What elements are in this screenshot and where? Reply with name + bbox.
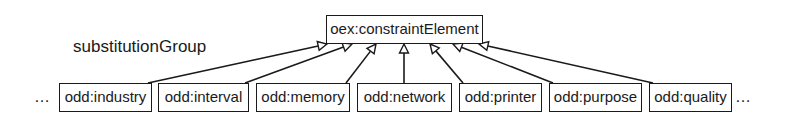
child-class-box-purpose: odd:purpose xyxy=(549,83,642,112)
parent-class-box: oex:constraintElement xyxy=(326,15,483,44)
child-class-label: odd:memory xyxy=(261,88,344,105)
child-class-box-memory: odd:memory xyxy=(256,83,350,112)
child-class-label: odd:network xyxy=(364,88,446,105)
hollow-triangle-arrowhead-icon xyxy=(342,43,352,51)
child-class-label: odd:purpose xyxy=(554,88,637,105)
child-class-label: odd:industry xyxy=(65,88,147,105)
parent-class-label: oex:constraintElement xyxy=(330,20,478,37)
substitution-group-label: substitutionGroup xyxy=(73,37,206,57)
ellipsis-left: … xyxy=(34,88,51,106)
hollow-triangle-arrowhead-icon xyxy=(367,44,376,54)
child-class-label: odd:printer xyxy=(465,88,537,105)
hollow-triangle-arrowhead-icon xyxy=(400,44,409,53)
hollow-triangle-arrowhead-icon xyxy=(453,43,463,51)
child-class-box-printer: odd:printer xyxy=(459,83,542,112)
child-class-label: odd:quality xyxy=(654,88,727,105)
child-class-box-network: odd:network xyxy=(357,83,452,112)
ellipsis-right: … xyxy=(735,88,752,106)
child-class-box-interval: odd:interval xyxy=(158,83,249,112)
child-class-box-industry: odd:industry xyxy=(59,83,152,112)
child-class-box-quality: odd:quality xyxy=(649,83,732,112)
child-class-label: odd:interval xyxy=(165,88,243,105)
